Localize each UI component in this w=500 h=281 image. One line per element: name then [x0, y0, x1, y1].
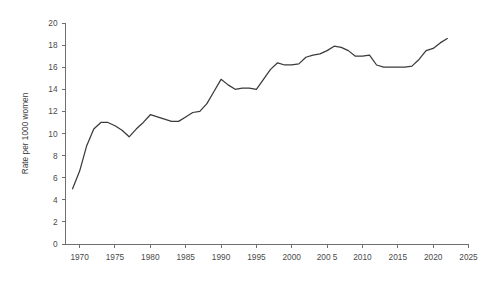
y-tick-label: 10 — [48, 129, 58, 139]
x-tick-label: 2020 — [424, 252, 443, 262]
x-tick-label: 1995 — [247, 252, 266, 262]
series-group — [73, 38, 448, 188]
x-tick-label: 2010 — [353, 252, 372, 262]
y-tick-label: 6 — [53, 173, 58, 183]
y-axis-title-group: Rate per 1000 women — [20, 92, 30, 174]
x-tick-label: 200 5 — [317, 252, 338, 262]
data-series-line — [73, 38, 448, 188]
x-tick-label: 2015 — [389, 252, 408, 262]
x-tick-label: 1980 — [141, 252, 160, 262]
x-tick-label: 1985 — [176, 252, 195, 262]
x-tick-label: 2025 — [459, 252, 478, 262]
chart-canvas: 02468101214161820 1970197519801985199019… — [0, 0, 500, 281]
y-tick-label: 14 — [48, 84, 58, 94]
y-tick-label: 20 — [48, 18, 58, 28]
x-tick-label: 2000 — [283, 252, 302, 262]
x-tick-label: 1990 — [212, 252, 231, 262]
y-tick-label: 4 — [53, 195, 58, 205]
x-tick-label: 1970 — [70, 252, 89, 262]
line-chart-figure: 02468101214161820 1970197519801985199019… — [0, 0, 500, 281]
x-axis-ticks: 1970197519801985199019952000200 52010201… — [70, 244, 478, 262]
y-tick-label: 18 — [48, 40, 58, 50]
y-axis-group: 02468101214161820 — [48, 18, 65, 249]
y-tick-label: 12 — [48, 106, 58, 116]
y-tick-label: 8 — [53, 151, 58, 161]
y-tick-label: 2 — [53, 217, 58, 227]
y-tick-label: 0 — [53, 239, 58, 249]
y-axis-ticks: 02468101214161820 — [48, 18, 65, 249]
x-tick-label: 1975 — [106, 252, 125, 262]
y-tick-label: 16 — [48, 62, 58, 72]
y-axis-title: Rate per 1000 women — [20, 92, 30, 174]
x-axis-group: 1970197519801985199019952000200 52010201… — [66, 244, 479, 262]
